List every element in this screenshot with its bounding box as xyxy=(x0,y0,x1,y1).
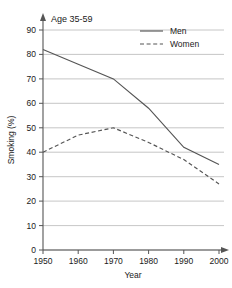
legend: Men Women xyxy=(140,26,199,49)
y-axis-title: Smoking (%) xyxy=(6,116,16,165)
y-tick-label-90: 90 xyxy=(27,25,37,35)
x-axis-arrow-icon xyxy=(221,247,229,253)
y-tick-label-60: 60 xyxy=(27,98,37,108)
y-tick-label-0: 0 xyxy=(31,245,36,255)
x-tick-label-1980: 1980 xyxy=(139,256,158,266)
x-tick-label-1950: 1950 xyxy=(34,256,53,266)
x-tick-label-1960: 1960 xyxy=(69,256,88,266)
x-tick-label-1990: 1990 xyxy=(174,256,193,266)
plot-title: Age 35-59 xyxy=(51,14,93,24)
y-tick-label-20: 20 xyxy=(27,196,37,206)
x-axis-title: Year xyxy=(124,270,141,280)
y-tick-label-50: 50 xyxy=(27,123,37,133)
legend-label-women: Women xyxy=(170,39,199,49)
series-line-women xyxy=(43,128,219,184)
line-chart: 0 10 20 30 40 50 60 70 80 90 1950 1960 1… xyxy=(0,0,232,288)
y-axis-arrow-icon xyxy=(40,13,46,21)
series-line-men xyxy=(43,50,219,165)
gridlines xyxy=(43,30,224,250)
x-tick-marks xyxy=(43,250,219,254)
y-tick-marks xyxy=(39,30,43,250)
y-tick-label-70: 70 xyxy=(27,74,37,84)
chart-container: 0 10 20 30 40 50 60 70 80 90 1950 1960 1… xyxy=(0,0,232,288)
x-tick-label-1970: 1970 xyxy=(104,256,123,266)
y-tick-label-80: 80 xyxy=(27,49,37,59)
y-tick-label-30: 30 xyxy=(27,172,37,182)
y-tick-labels: 0 10 20 30 40 50 60 70 80 90 xyxy=(27,25,37,255)
legend-label-men: Men xyxy=(170,26,187,36)
y-tick-label-10: 10 xyxy=(27,221,37,231)
y-tick-label-40: 40 xyxy=(27,147,37,157)
x-tick-label-2000: 2000 xyxy=(210,256,229,266)
x-axis xyxy=(43,247,229,253)
y-axis xyxy=(40,13,46,250)
x-tick-labels: 1950 1960 1970 1980 1990 2000 xyxy=(34,256,229,266)
